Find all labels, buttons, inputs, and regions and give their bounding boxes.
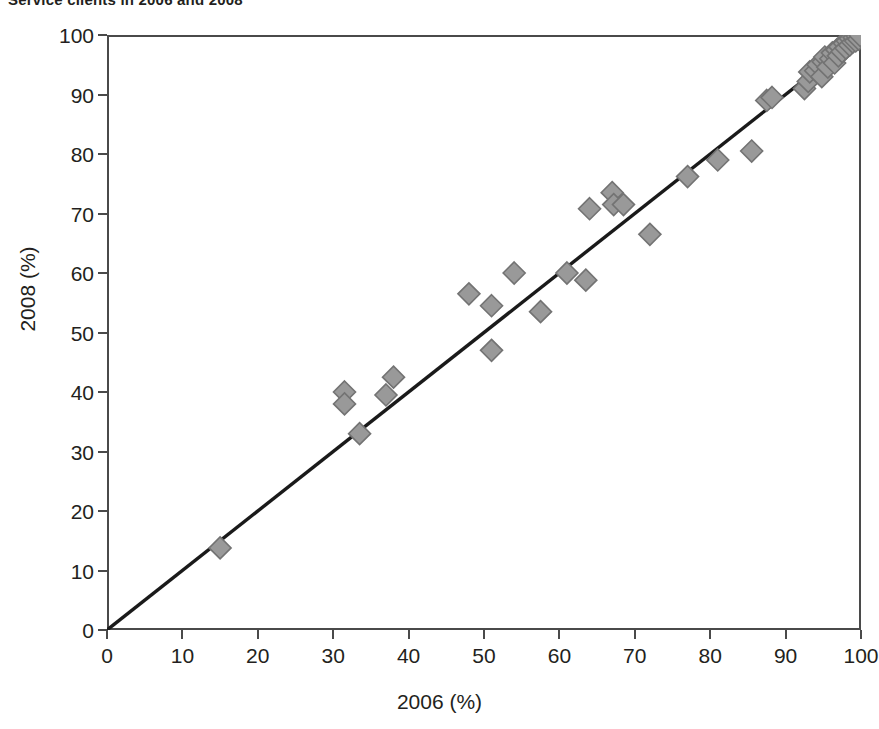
y-axis-label: 2008 (%): [16, 209, 40, 369]
y-tick-label: 50: [34, 323, 94, 344]
y-tick-mark: [98, 391, 107, 393]
x-axis-ticks: 0102030405060708090100: [0, 645, 879, 675]
data-point: [209, 537, 231, 559]
x-tick-mark: [785, 630, 787, 639]
y-tick-mark: [98, 451, 107, 453]
y-tick-mark: [98, 153, 107, 155]
y-tick-label: 80: [34, 144, 94, 165]
y-tick-mark: [98, 570, 107, 572]
x-tick-label: 80: [675, 645, 745, 666]
data-point: [741, 140, 763, 162]
x-tick-label: 50: [449, 645, 519, 666]
x-tick-mark: [181, 630, 183, 639]
y-tick-label: 70: [34, 204, 94, 225]
y-tick-mark: [98, 332, 107, 334]
x-tick-mark: [709, 630, 711, 639]
x-tick-label: 30: [298, 645, 368, 666]
x-tick-label: 20: [223, 645, 293, 666]
x-tick-label: 60: [524, 645, 594, 666]
x-tick-label: 90: [751, 645, 821, 666]
x-tick-mark: [558, 630, 560, 639]
y-tick-label: 100: [34, 25, 94, 46]
y-tick-label: 30: [34, 442, 94, 463]
x-axis-label: 2006 (%): [0, 690, 879, 714]
x-tick-label: 100: [826, 645, 879, 666]
x-tick-mark: [483, 630, 485, 639]
x-tick-mark: [257, 630, 259, 639]
data-point: [481, 339, 503, 361]
y-tick-mark: [98, 94, 107, 96]
x-tick-mark: [332, 630, 334, 639]
data-point: [677, 166, 699, 188]
y-tick-label: 20: [34, 501, 94, 522]
x-tick-label: 10: [147, 645, 217, 666]
data-point: [503, 262, 525, 284]
x-tick-mark: [634, 630, 636, 639]
x-tick-mark: [106, 630, 108, 639]
data-point: [458, 283, 480, 305]
y-tick-label: 90: [34, 85, 94, 106]
x-tick-label: 70: [600, 645, 670, 666]
data-point: [530, 301, 552, 323]
y-tick-mark: [98, 272, 107, 274]
data-point: [579, 198, 601, 220]
y-tick-label: 0: [34, 620, 94, 641]
y-tick-label: 40: [34, 382, 94, 403]
y-tick-mark: [98, 34, 107, 36]
y-tick-label: 10: [34, 561, 94, 582]
data-point: [481, 295, 503, 317]
y-tick-mark: [98, 213, 107, 215]
chart-title: Service clients in 2006 and 2008: [8, 0, 608, 9]
y-tick-mark: [98, 510, 107, 512]
chart-page: Service clients in 2006 and 2008 1009080…: [0, 0, 879, 729]
y-tick-label: 60: [34, 263, 94, 284]
x-tick-mark: [860, 630, 862, 639]
x-tick-mark: [408, 630, 410, 639]
x-tick-label: 40: [374, 645, 444, 666]
plot-canvas: [107, 35, 861, 630]
data-point: [639, 223, 661, 245]
x-tick-label: 0: [72, 645, 142, 666]
